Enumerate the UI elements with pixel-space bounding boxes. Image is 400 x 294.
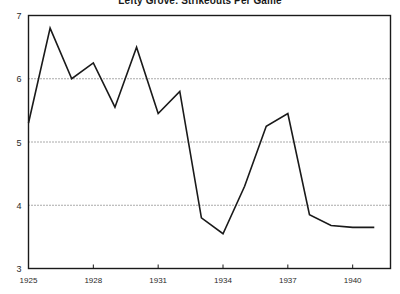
x-tick-label: 1934 xyxy=(214,276,232,285)
line-chart-plot: 34567 192519281931193419371940 xyxy=(0,0,400,294)
gridlines-group xyxy=(29,79,391,206)
x-tick-label: 1928 xyxy=(84,276,102,285)
x-tick-label: 1940 xyxy=(344,276,362,285)
y-tick-label: 7 xyxy=(16,11,21,21)
x-axis-tick-labels: 192519281931193419371940 xyxy=(20,276,363,285)
series-line xyxy=(29,28,375,234)
y-tick-label: 4 xyxy=(16,201,21,211)
y-axis-tick-labels: 34567 xyxy=(16,11,21,274)
x-tick-label: 1931 xyxy=(149,276,167,285)
data-series-line xyxy=(29,28,375,234)
x-tick-label: 1937 xyxy=(279,276,297,285)
chart-container: Lefty Grove: Strikeouts Per Game 34567 1… xyxy=(0,0,400,294)
y-tick-label: 5 xyxy=(16,138,21,148)
y-tick-label: 3 xyxy=(16,264,21,274)
y-tick-label: 6 xyxy=(16,74,21,84)
x-tick-label: 1925 xyxy=(20,276,38,285)
